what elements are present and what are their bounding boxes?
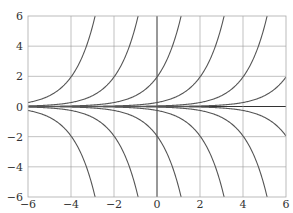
y-tick-labels: 6420−2−4−6 <box>7 10 23 204</box>
x-tick-label: 4 <box>240 198 247 211</box>
exponential-family-plot: −6−4−20246 6420−2−4−6 <box>0 0 293 213</box>
x-tick-labels: −6−4−20246 <box>20 198 290 211</box>
y-tick-label: 2 <box>16 70 23 83</box>
x-tick-label: 0 <box>154 198 161 211</box>
y-tick-label: 0 <box>16 101 23 114</box>
x-tick-label: −4 <box>63 198 79 211</box>
y-tick-label: −2 <box>7 131 23 144</box>
x-tick-label: 6 <box>283 198 290 211</box>
x-tick-label: −2 <box>106 198 122 211</box>
y-tick-label: −4 <box>7 161 23 174</box>
y-tick-label: 4 <box>16 40 23 53</box>
y-tick-label: 6 <box>16 10 23 23</box>
x-tick-label: 2 <box>197 198 204 211</box>
y-tick-label: −6 <box>7 191 23 204</box>
